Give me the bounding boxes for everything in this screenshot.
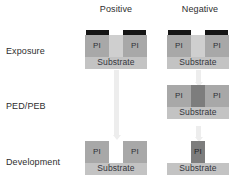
substrate-layer: Substrate xyxy=(167,57,229,69)
resist-label: PI xyxy=(167,91,191,100)
resist-block-right: PI xyxy=(205,35,229,57)
cell-negative-ped-peb: PI PI Substrate xyxy=(167,85,229,121)
resist-layer: PI PI xyxy=(167,85,229,107)
developed-gap xyxy=(109,141,123,163)
resist-label: PI xyxy=(191,147,205,156)
cell-negative-exposure: PI PI Substrate xyxy=(167,30,229,70)
exposed-gap xyxy=(109,35,123,57)
resist-label: PI xyxy=(85,147,109,156)
resist-label: PI xyxy=(167,41,191,50)
row-label-exposure: Exposure xyxy=(6,46,80,56)
exposed-gap xyxy=(191,35,205,57)
cell-negative-development: PI Substrate xyxy=(167,141,229,177)
resist-block-right: PI xyxy=(123,141,147,163)
resist-block-left: PI xyxy=(167,85,191,107)
resist-layer: PI PI xyxy=(85,35,147,57)
substrate-layer: Substrate xyxy=(167,107,229,119)
resist-label: PI xyxy=(85,41,109,50)
resist-block-left: PI xyxy=(85,35,109,57)
substrate-layer: Substrate xyxy=(85,163,147,175)
process-flow-diagram: Positive Negative Exposure PED/PEB Devel… xyxy=(0,0,250,194)
crosslinked-block: PI xyxy=(191,141,205,163)
resist-block-left: PI xyxy=(167,35,191,57)
resist-block-left: PI xyxy=(85,141,109,163)
resist-label: PI xyxy=(123,147,147,156)
arrow-negative-exposure-to-pedpeb xyxy=(196,70,201,83)
cell-positive-development: PI PI Substrate xyxy=(85,141,147,177)
resist-label: PI xyxy=(123,41,147,50)
row-label-ped-peb: PED/PEB xyxy=(6,101,80,111)
column-header-negative: Negative xyxy=(162,4,238,14)
resist-layer: PI PI xyxy=(85,141,147,163)
arrow-positive-exposure-to-development xyxy=(114,70,119,136)
resist-layer: PI xyxy=(167,141,229,163)
substrate-layer: Substrate xyxy=(167,163,229,175)
resist-layer: PI PI xyxy=(167,35,229,57)
crosslinked-block xyxy=(191,85,205,107)
arrow-negative-pedpeb-to-development xyxy=(196,126,201,138)
developed-gap-left xyxy=(167,141,191,163)
substrate-layer: Substrate xyxy=(85,57,147,69)
resist-block-right: PI xyxy=(205,85,229,107)
row-label-development: Development xyxy=(6,157,80,167)
cell-positive-exposure: PI PI Substrate xyxy=(85,30,147,70)
resist-label: PI xyxy=(205,41,229,50)
developed-gap-right xyxy=(205,141,229,163)
resist-block-right: PI xyxy=(123,35,147,57)
resist-label: PI xyxy=(205,91,229,100)
column-header-positive: Positive xyxy=(80,4,152,14)
